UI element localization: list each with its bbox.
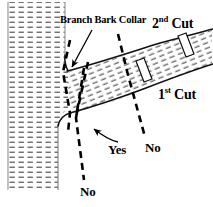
yes-label: Yes [108, 143, 126, 156]
pruning-diagram-canvas [0, 0, 213, 207]
second-cut-label: 2nd Cut [152, 17, 193, 31]
first-cut-word: Cut [174, 87, 196, 102]
first-cut-ordinal: st [165, 85, 171, 95]
pruning-diagram-figure: Branch Bark Collar 2nd Cut 1st Cut Yes N… [0, 0, 213, 207]
no-label-right: No [145, 141, 161, 154]
branch-bark-collar-label: Branch Bark Collar [60, 15, 146, 26]
yes-pointer-arrow [94, 129, 118, 142]
second-cut-ordinal: nd [159, 14, 168, 24]
collar-pointer-arrow [72, 30, 92, 67]
second-cut-word: Cut [171, 16, 193, 31]
second-cut-number: 2 [152, 16, 159, 31]
first-cut-number: 1 [158, 87, 165, 102]
first-cut-label: 1st Cut [158, 88, 196, 102]
no-label-bottom: No [80, 185, 96, 198]
tree-trunk [8, 2, 68, 190]
